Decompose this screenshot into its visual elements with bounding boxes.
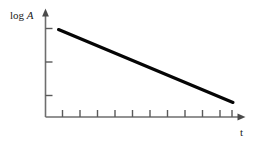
y-axis-ticks <box>46 29 53 96</box>
x-axis-arrow-icon <box>238 114 246 121</box>
figure-container: log A t <box>0 0 258 146</box>
line-chart-canvas: log A t <box>0 0 258 146</box>
x-axis-label: t <box>240 126 243 138</box>
y-axis-arrow-icon <box>42 9 49 17</box>
y-axis-label-prefix: log <box>10 9 25 21</box>
x-axis-ticks <box>63 110 233 117</box>
y-axis-label: log A <box>10 9 34 21</box>
y-axis-label-variable: A <box>26 9 34 21</box>
data-series-line <box>59 30 234 103</box>
